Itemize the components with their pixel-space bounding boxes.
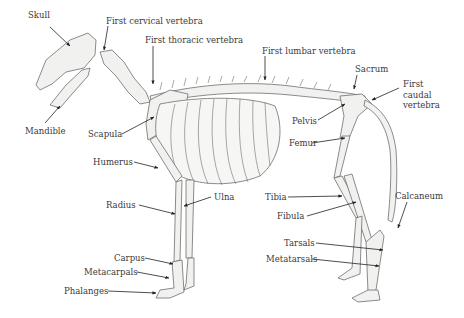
label-sacrum: Sacrum	[355, 64, 388, 74]
hind-metatarsals	[366, 230, 384, 292]
label-first-lumbar-vertebra: First lumbar vertebra	[262, 46, 356, 56]
tail	[364, 100, 397, 222]
bones	[36, 33, 397, 302]
skull-bone	[36, 33, 96, 90]
label-humerus: Humerus	[93, 157, 133, 167]
front-foot	[156, 260, 184, 298]
label-tibia: Tibia	[265, 192, 287, 202]
label-radius: Radius	[106, 200, 136, 210]
label-first-thoracic-vertebra: First thoracic vertebra	[145, 35, 243, 45]
pelvis-bone	[340, 94, 372, 138]
label-tarsals: Tarsals	[284, 238, 315, 248]
label-metacarpals: Metacarpals	[84, 267, 138, 277]
femur-bone	[334, 136, 350, 178]
label-calcaneum: Calcaneum	[395, 191, 443, 201]
skeleton-diagram: Skull First cervical vertebra First thor…	[0, 0, 464, 318]
cervical-vertebrae	[100, 50, 150, 104]
radius-ulna-front	[174, 180, 182, 262]
label-metatarsals: Metatarsals	[266, 254, 317, 264]
hind-foot	[352, 290, 380, 302]
dog-skeleton-illustration	[0, 0, 464, 318]
label-phalanges: Phalanges	[64, 286, 108, 296]
label-pelvis: Pelvis	[292, 116, 317, 126]
label-ulna: Ulna	[214, 192, 234, 202]
radius-ulna-back	[186, 180, 194, 258]
back-front-foot	[184, 258, 194, 290]
hind-foot-back	[338, 216, 362, 280]
label-scapula: Scapula	[88, 129, 122, 139]
label-skull: Skull	[28, 10, 50, 20]
label-first-caudal-vertebra: First caudal vertebra	[403, 79, 440, 111]
label-carpus: Carpus	[114, 253, 145, 263]
label-femur: Femur	[289, 138, 317, 148]
label-fibula: Fibula	[277, 211, 304, 221]
label-first-cervical-vertebra: First cervical vertebra	[106, 16, 203, 26]
label-mandible: Mandible	[25, 126, 66, 136]
